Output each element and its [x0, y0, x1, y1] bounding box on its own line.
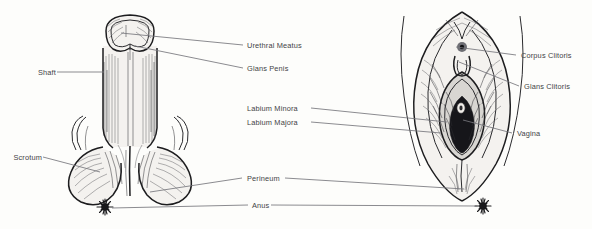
anatomy-diagram-page: ··· ·· ······· ·····	[0, 0, 592, 229]
label-labium-majora: Labium Majora	[247, 118, 298, 127]
label-shaft: Shaft	[8, 68, 56, 77]
label-labium-minora: Labium Minora	[247, 104, 298, 113]
label-glans-penis: Glans Penis	[247, 64, 289, 73]
label-perineum: Perineum	[247, 174, 280, 183]
label-urethral-meatus: Urethral Meatus	[247, 41, 302, 50]
label-glans-clitoris: Glans Clitoris	[524, 82, 570, 91]
leader-glans-clitoris	[459, 62, 519, 86]
label-vagina: Vagina	[517, 129, 540, 138]
leader-labium-majora	[311, 122, 441, 133]
leader-anus-right	[271, 205, 477, 206]
leader-glans-penis	[135, 46, 243, 68]
leader-corpus-clitoris	[456, 47, 516, 55]
leader-perineum-right	[285, 178, 464, 189]
leader-scrotum	[43, 157, 100, 172]
label-anus: Anus	[252, 201, 269, 210]
leader-vagina	[463, 120, 512, 133]
leader-labium-minora	[311, 108, 447, 122]
leader-anus-left	[112, 205, 248, 208]
label-scrotum: Scrotum	[0, 153, 42, 162]
label-corpus-clitoris: Corpus Clitoris	[521, 51, 572, 60]
leader-perineum-left	[150, 178, 242, 192]
leader-urethral-meatus	[121, 33, 243, 45]
leader-lines-layer	[0, 0, 592, 229]
